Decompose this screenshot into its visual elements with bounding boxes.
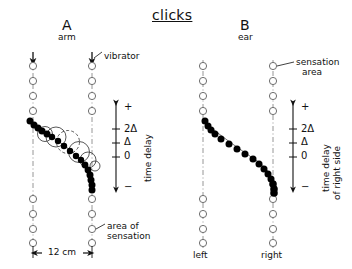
figure-canvas: clicks A arm B ear vibrator area of sens… [0,0,352,269]
sensation-area-leader-line [277,62,294,66]
figure-vector-layer [0,0,352,269]
panel-b-filled-markers [202,118,278,197]
panel-a-filled-markers [27,118,96,194]
area-of-sensation-leader-line [96,224,105,229]
vibrator-leader-line [94,52,102,58]
